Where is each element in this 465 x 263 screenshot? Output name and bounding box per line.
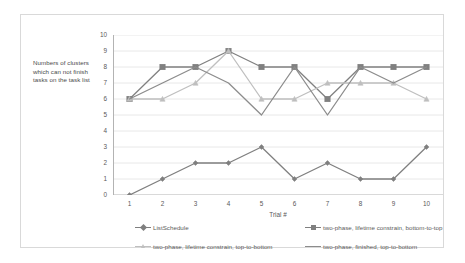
y-tick-label: 0 (93, 192, 107, 198)
x-axis-title: Trial # (113, 211, 443, 218)
legend-marker-icon (305, 242, 321, 250)
x-tick-label: 9 (385, 200, 403, 207)
x-tick-label: 3 (187, 200, 205, 207)
y-tick-label: 7 (93, 80, 107, 86)
x-tick-label: 4 (220, 200, 238, 207)
legend-marker-icon (135, 223, 151, 231)
y-tick-label: 4 (93, 128, 107, 134)
y-tick-label: 9 (93, 48, 107, 54)
legend-marker-icon (305, 223, 321, 231)
legend-item-lifetime-constrain-top-to-bottom[interactable]: two-phase, lifetime constrain, top-to-bo… (135, 241, 273, 251)
y-tick-label: 10 (93, 32, 107, 38)
legend-label: two-phase, finished, top-to-bottom (323, 243, 417, 250)
x-tick-label: 5 (253, 200, 271, 207)
y-tick-label: 3 (93, 144, 107, 150)
y-tick-label: 1 (93, 176, 107, 182)
x-tick-label: 6 (286, 200, 304, 207)
y-tick-label: 8 (93, 64, 107, 70)
x-tick-label: 1 (121, 200, 139, 207)
x-tick-label: 7 (319, 200, 337, 207)
legend-label: two-phase, lifetime constrain, bottom-to… (323, 224, 443, 231)
legend-item-finished-top-to-bottom[interactable]: two-phase, finished, top-to-bottom (305, 241, 417, 251)
x-tick-label: 10 (418, 200, 436, 207)
chart-plot-svg (113, 35, 443, 195)
y-tick-label: 5 (93, 112, 107, 118)
legend-label: ListSchedule (153, 224, 189, 231)
legend-marker-icon (135, 242, 151, 250)
y-tick-label: 2 (93, 160, 107, 166)
y-tick-label: 6 (93, 96, 107, 102)
x-tick-label: 2 (154, 200, 172, 207)
plot-area (113, 35, 443, 195)
legend-item-listschedule[interactable]: ListSchedule (135, 222, 189, 232)
chart-legend: ListSchedule two-phase, lifetime constra… (109, 222, 439, 256)
y-axis-title: Numbers of clusters which can not finish… (33, 59, 99, 85)
x-tick-label: 8 (352, 200, 370, 207)
legend-label: two-phase, lifetime constrain, top-to-bo… (153, 243, 273, 250)
legend-item-lifetime-constrain-bottom-to-top[interactable]: two-phase, lifetime constrain, bottom-to… (305, 222, 443, 232)
chart-container: Numbers of clusters which can not finish… (20, 14, 444, 248)
